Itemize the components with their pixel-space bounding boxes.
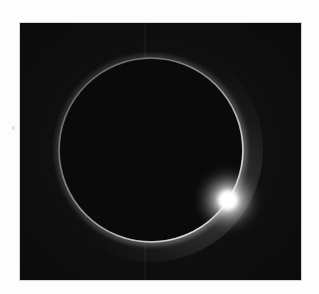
eclipse-photo — [20, 23, 301, 280]
image-canvas — [0, 0, 319, 294]
eclipse-graphic — [20, 23, 301, 280]
flare-core — [219, 191, 237, 209]
scan-artifact — [12, 126, 15, 130]
